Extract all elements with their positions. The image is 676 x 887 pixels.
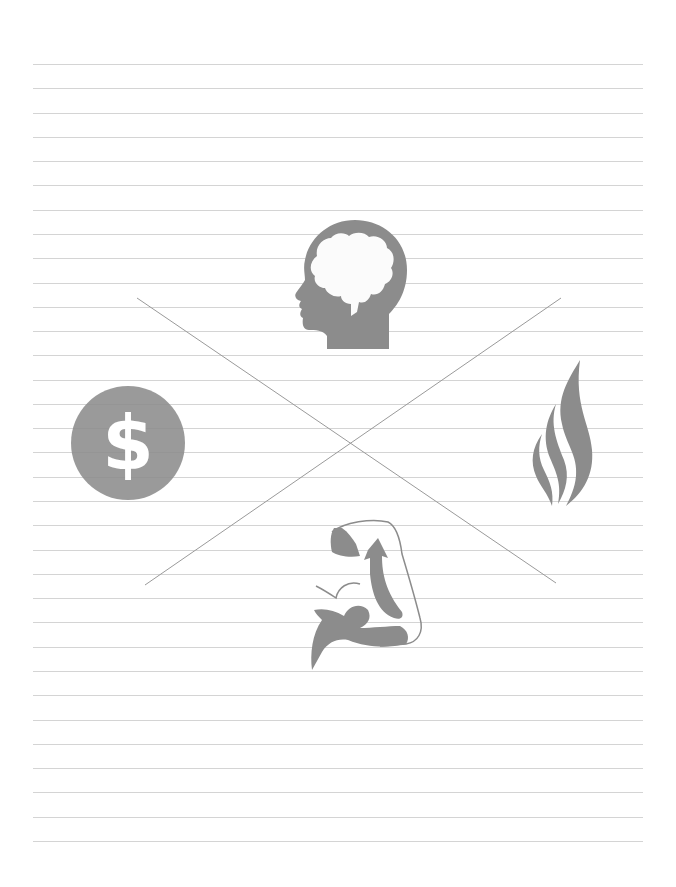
dollar-sign: $ [71,386,185,500]
flexed-arm-icon [308,514,424,674]
flame-icon [528,358,594,508]
notebook-page: $ [0,0,676,887]
brain-head-icon [293,220,409,349]
dollar-icon: $ [71,386,185,500]
